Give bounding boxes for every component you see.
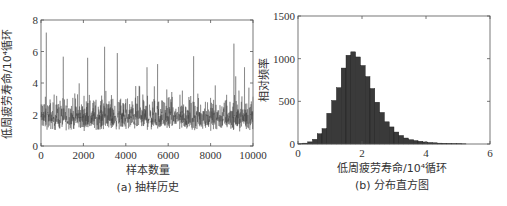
histogram-bar — [322, 129, 327, 144]
x-tick-label: 0 — [38, 149, 44, 161]
trace-ylabel: 低周疲劳寿命/10⁴循环 — [0, 29, 14, 139]
histogram-caption: (b) 分布直方图 — [355, 178, 429, 192]
y-tick-label: 6 — [33, 46, 39, 58]
y-tick-label: 0 — [290, 138, 296, 150]
histogram-bar — [351, 52, 356, 144]
y-tick-label: 1000 — [273, 53, 296, 65]
histogram-ylabel: 相对频率 — [257, 58, 271, 102]
histogram-bar — [408, 140, 413, 144]
x-tick-label: 2000 — [72, 149, 95, 161]
x-tick-label: 6 — [487, 147, 493, 159]
y-tick-label: 500 — [279, 95, 296, 107]
trace-plot: 020004000600080001000002468 样本数量 (a) 抽样历… — [0, 14, 267, 194]
trace-xlabel: 样本数量 — [126, 163, 170, 177]
histogram-bar — [389, 127, 394, 144]
x-tick-label: 2 — [359, 147, 365, 159]
histogram-bar — [327, 113, 332, 144]
x-tick-label: 10000 — [239, 149, 267, 161]
histogram-bar — [317, 134, 322, 144]
y-tick-label: 0 — [33, 140, 39, 152]
histogram-bar — [346, 55, 351, 144]
histogram-bar — [404, 138, 409, 144]
histogram-bar — [380, 112, 385, 144]
histogram-bar — [375, 102, 380, 144]
histogram-bar — [332, 100, 337, 144]
histogram-bar — [413, 141, 418, 144]
trace-axes-ticks: 020004000600080001000002468 — [33, 14, 268, 161]
histogram-bar — [370, 89, 375, 144]
histogram-plot: 0246050010001500 低周疲劳寿命/10⁴循环 (b) 分布直方图 … — [257, 10, 493, 192]
y-tick-label: 1500 — [273, 10, 296, 22]
histogram-bar — [336, 88, 341, 144]
histogram-bar — [365, 77, 370, 144]
x-tick-label: 8000 — [200, 149, 223, 161]
histogram-bar — [394, 132, 399, 144]
trace-line — [41, 33, 253, 132]
trace-series — [41, 33, 253, 132]
x-tick-label: 4 — [423, 147, 429, 159]
y-tick-label: 8 — [33, 14, 39, 26]
trace-caption: (a) 抽样历史 — [117, 180, 180, 194]
histogram-bar — [418, 141, 423, 144]
histogram-bars — [298, 52, 466, 144]
histogram-bar — [341, 68, 346, 144]
histogram-xlabel: 低周疲劳寿命/10⁴循环 — [337, 161, 447, 175]
x-tick-label: 4000 — [115, 149, 138, 161]
histogram-bar — [312, 139, 317, 144]
histogram-bar — [384, 122, 389, 144]
x-tick-label: 0 — [295, 147, 301, 159]
y-tick-label: 4 — [33, 77, 39, 89]
x-tick-label: 6000 — [157, 149, 180, 161]
histogram-bar — [356, 57, 361, 144]
figure: 020004000600080001000002468 样本数量 (a) 抽样历… — [0, 0, 507, 206]
histogram-bar — [360, 65, 365, 144]
y-tick-label: 2 — [33, 109, 39, 121]
histogram-bar — [399, 135, 404, 144]
